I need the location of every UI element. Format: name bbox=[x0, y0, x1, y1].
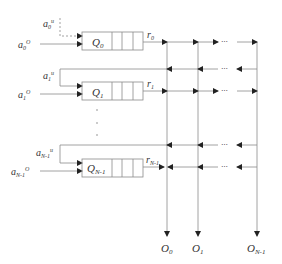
label-a0u: a0u bbox=[43, 18, 54, 30]
label-an1u: aN-1u bbox=[36, 147, 53, 159]
label-r1: r1 bbox=[147, 78, 154, 90]
a0u-line bbox=[60, 18, 82, 36]
label-rn1: rN-1 bbox=[146, 154, 159, 166]
diagram-canvas: ··· ··· ··· ··· ··· a0u a0O Q0 r0 a1u a1… bbox=[0, 0, 282, 264]
svg-text:···: ··· bbox=[221, 85, 228, 95]
queue-diagram: ··· ··· ··· ··· ··· a0u a0O Q0 r0 a1u a1… bbox=[0, 0, 282, 264]
label-a0o: a0O bbox=[18, 39, 31, 51]
label-on1: ON-1 bbox=[247, 242, 265, 256]
svg-text:···: ··· bbox=[221, 63, 228, 73]
label-r0: r0 bbox=[147, 29, 154, 41]
label-a1u: a1u bbox=[43, 70, 54, 82]
label-an1o: aN-1O bbox=[11, 166, 30, 178]
horizontal-ellipses: ··· ··· ··· ··· ··· bbox=[221, 36, 228, 171]
label-qn1: QN-1 bbox=[87, 162, 105, 176]
svg-text:···: ··· bbox=[221, 139, 228, 149]
svg-text:···: ··· bbox=[221, 36, 228, 46]
vertical-ellipsis bbox=[96, 109, 98, 136]
label-o0: O0 bbox=[161, 242, 173, 256]
svg-text:···: ··· bbox=[221, 161, 228, 171]
label-a1o: a1O bbox=[18, 89, 31, 101]
label-o1: O1 bbox=[192, 242, 203, 256]
label-q1: Q1 bbox=[92, 86, 103, 100]
label-q0: Q0 bbox=[92, 36, 104, 50]
